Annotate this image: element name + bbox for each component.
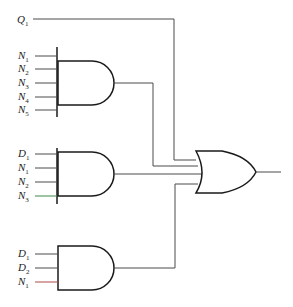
logic-circuit-diagram: Q1 N1 N2 N3 N4 N5 D1 N1 N2 N3 xyxy=(0,0,293,307)
or-gate-body xyxy=(196,151,256,193)
or-gate xyxy=(196,151,281,193)
and-gate-middle-body xyxy=(58,152,114,196)
label-q1: Q1 xyxy=(17,13,29,28)
and-gate-top: N1 N2 N3 N4 N5 xyxy=(17,47,198,166)
svg-text:N3: N3 xyxy=(17,189,29,204)
svg-text:N2: N2 xyxy=(17,175,29,190)
and-gate-top-body xyxy=(58,61,114,105)
and-gate-middle: D1 N1 N2 N3 xyxy=(17,147,201,204)
and-gate-bottom-body xyxy=(58,246,114,290)
svg-text:N1: N1 xyxy=(17,275,29,290)
svg-text:D2: D2 xyxy=(17,261,30,276)
wire-and-bottom-out xyxy=(114,184,198,268)
svg-text:N3: N3 xyxy=(17,76,29,91)
svg-text:N2: N2 xyxy=(17,62,29,77)
wire-and-top-out xyxy=(114,83,198,166)
and-gate-bottom: D1 D2 N1 xyxy=(17,184,198,290)
svg-text:D1: D1 xyxy=(17,147,30,162)
svg-text:N1: N1 xyxy=(17,161,29,176)
svg-text:N5: N5 xyxy=(17,103,29,118)
svg-text:D1: D1 xyxy=(17,247,30,262)
